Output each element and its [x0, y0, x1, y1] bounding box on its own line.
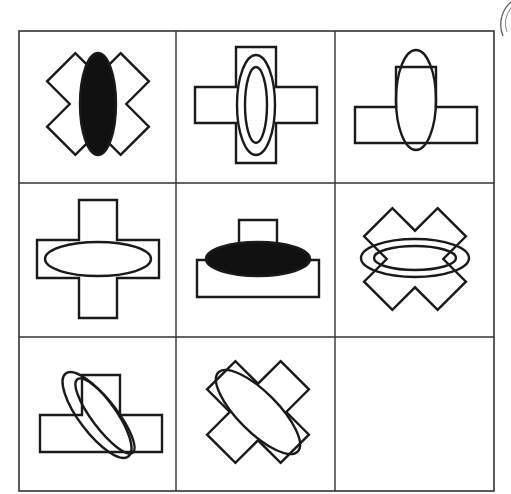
ellipse-filled-horizontal — [206, 242, 310, 276]
puzzle-canvas — [0, 0, 511, 494]
ellipse-outer-vertical — [237, 55, 275, 155]
cell-r3c2 — [204, 358, 311, 465]
ellipse-outline-vertical — [396, 50, 436, 150]
plus-cross-shape — [37, 200, 159, 318]
plus-cross-shape — [195, 47, 317, 163]
cell-r2c3 — [361, 208, 469, 310]
corner-arc-mark — [501, 2, 511, 36]
cell-r1c2 — [195, 47, 317, 163]
t-shape — [355, 67, 477, 143]
ellipse-outer-horizontal — [361, 239, 469, 277]
cell-r1c1 — [47, 53, 149, 155]
ellipse-inner-vertical — [245, 67, 267, 143]
cell-r2c2 — [197, 220, 319, 297]
answer-blank-cell — [339, 341, 490, 487]
cell-r1c3 — [355, 50, 477, 150]
x-cross-shape — [207, 361, 309, 463]
t-shape — [40, 375, 162, 452]
cell-r2c1 — [37, 200, 159, 318]
puzzle-cells — [37, 47, 490, 487]
x-cross-shape — [364, 208, 466, 310]
ellipse-outline-horizontal — [45, 242, 151, 276]
cell-r3c3 — [339, 341, 490, 487]
cell-r3c1 — [40, 363, 162, 468]
ellipse-filled-vertical — [80, 53, 116, 155]
